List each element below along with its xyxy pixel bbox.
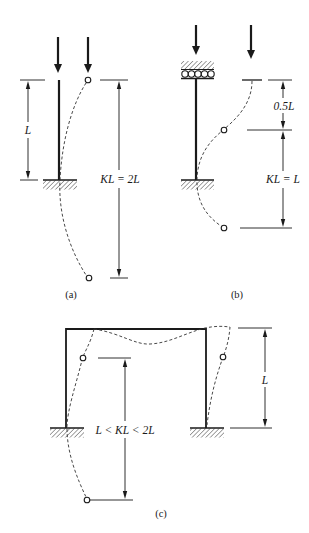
buckled-shape: [60, 83, 86, 275]
load-arrow-icon: [247, 25, 255, 59]
inflection-point-icon: [86, 275, 92, 281]
panel-c: L < KL < 2L L (c): [50, 326, 272, 520]
panel-a: L KL = 2L (a): [20, 37, 140, 301]
length-label: L: [24, 124, 31, 136]
dimension-KL: KL = 2L: [99, 80, 140, 278]
top-offset-label: 0.5L: [274, 100, 295, 112]
caption-a: (a): [65, 289, 77, 301]
roller-support-icon: [181, 61, 214, 79]
panel-b: 0.5L KL = L (b): [181, 25, 300, 301]
caption-b: (b): [231, 289, 244, 301]
effective-length-diagram: L KL = 2L (a): [0, 0, 309, 533]
buckled-shape: [94, 326, 230, 425]
buckled-shape: [197, 81, 252, 226]
caption-c: (c): [155, 508, 167, 520]
fixed-support-icon: [190, 428, 224, 438]
buckled-shape: [67, 329, 94, 497]
portal-frame: [66, 329, 206, 428]
load-arrow-icon: [84, 37, 92, 73]
effective-length-label: KL = L: [265, 173, 300, 185]
inflection-point-icon: [220, 354, 226, 360]
inflection-point-icon: [221, 225, 227, 231]
inflection-point-icon: [84, 497, 90, 503]
effective-length-label: KL = 2L: [99, 173, 140, 185]
inflection-point-icon: [80, 355, 86, 361]
dimension-0.5L: 0.5L: [247, 80, 294, 130]
load-arrow-icon: [192, 25, 200, 55]
dimension-L: L: [20, 80, 45, 180]
inflection-point-icon: [85, 77, 91, 83]
dimension-L: L: [230, 328, 272, 428]
inflection-point-icon: [221, 127, 227, 133]
load-arrow-icon: [54, 37, 62, 73]
dimension-KL: L < KL < 2L: [90, 358, 155, 500]
height-label: L: [261, 374, 268, 386]
dimension-KL: KL = L: [240, 131, 300, 228]
effective-length-label: L < KL < 2L: [94, 424, 154, 436]
